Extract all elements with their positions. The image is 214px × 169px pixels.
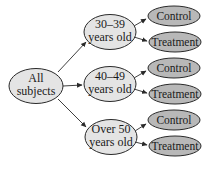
group-label-line2: years old [88, 82, 132, 96]
group-label-line2: years old [88, 30, 132, 44]
arrow-root-to-group-over-50 [58, 99, 86, 127]
arrow-root-to-group-30-39 [58, 42, 86, 72]
root-node-all-subjects: All subjects [9, 69, 63, 104]
root-label-line2: subjects [17, 84, 56, 98]
arrow-group2-to-control [134, 71, 146, 78]
leaf-node-control: Control [148, 6, 200, 26]
leaf-label: Control [156, 10, 191, 22]
leaf-label: Control [156, 62, 191, 74]
arrow-group1-to-control [134, 19, 146, 26]
leaf-node-treatment: Treatment [149, 84, 201, 104]
group-label-line2: years old [89, 135, 133, 149]
leaf-label: Control [156, 114, 191, 126]
leaf-node-treatment: Treatment [149, 32, 201, 52]
arrow-group2-to-treatment [134, 89, 147, 93]
arrow-group3-to-control [135, 124, 146, 131]
block-design-diagram: All subjects 30–39 years old 40–49 years… [0, 0, 214, 169]
arrow-group1-to-treatment [134, 37, 147, 41]
leaf-node-treatment: Treatment [149, 136, 201, 156]
group-node-30-39: 30–39 years old [84, 15, 136, 50]
group-node-over-50: Over 50 years old [85, 120, 137, 155]
leaf-node-control: Control [148, 110, 200, 130]
group-label-line1: 30–39 [95, 17, 125, 31]
arrow-group3-to-treatment [135, 142, 147, 145]
group-node-40-49: 40–49 years old [84, 67, 136, 102]
leaf-label: Treatment [152, 88, 200, 100]
group-label-line1: Over 50 [92, 122, 131, 136]
root-label-line1: All [28, 71, 44, 85]
leaf-label: Treatment [152, 36, 200, 48]
group-label-line1: 40–49 [95, 69, 125, 83]
leaf-label: Treatment [152, 140, 200, 152]
arrow-root-to-group-40-49 [63, 85, 82, 86]
leaf-node-control: Control [148, 58, 200, 78]
